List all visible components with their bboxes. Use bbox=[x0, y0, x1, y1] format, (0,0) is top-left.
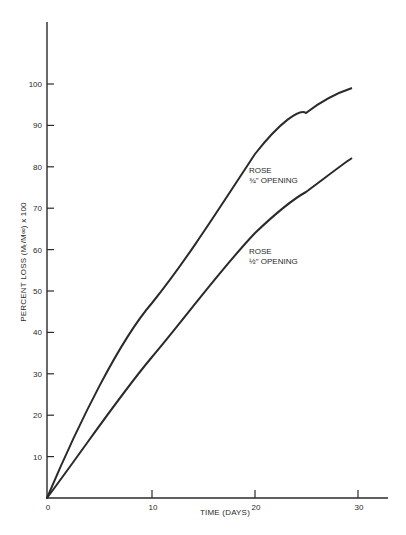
x-tick-label: 0 bbox=[46, 503, 51, 512]
y-tick-label: 20 bbox=[33, 411, 42, 420]
y-tick-label: 40 bbox=[33, 328, 42, 337]
y-ticks bbox=[47, 84, 54, 457]
x-axis-title: TIME (DAYS) bbox=[200, 508, 250, 517]
y-tick-label: 90 bbox=[33, 121, 42, 130]
annotation-three-quarter: ROSE ¾" OPENING bbox=[249, 166, 298, 185]
annotation-label: ¾" OPENING bbox=[249, 176, 298, 185]
y-tick-label: 50 bbox=[33, 287, 42, 296]
x-ticks bbox=[152, 490, 358, 498]
series-rose-half-inch bbox=[47, 158, 352, 498]
annotation-label: ROSE bbox=[249, 166, 272, 175]
chart-canvas: 10 20 30 40 50 60 70 80 90 100 0 10 20 3… bbox=[0, 0, 406, 535]
annotation-label: ½" OPENING bbox=[249, 257, 298, 266]
y-tick-label: 30 bbox=[33, 370, 42, 379]
y-tick-label: 100 bbox=[29, 80, 43, 89]
x-tick-label: 10 bbox=[149, 503, 158, 512]
y-tick-label: 70 bbox=[33, 204, 42, 213]
y-tick-label: 80 bbox=[33, 163, 42, 172]
x-tick-label: 20 bbox=[252, 503, 261, 512]
y-tick-label: 10 bbox=[33, 453, 42, 462]
y-axis-title: PERCENT LOSS (Mₜ/M∞) x 100 bbox=[19, 202, 28, 322]
annotation-label: ROSE bbox=[249, 247, 272, 256]
annotation-half: ROSE ½" OPENING bbox=[249, 247, 298, 266]
y-tick-labels: 10 20 30 40 50 60 70 80 90 100 bbox=[29, 80, 43, 462]
y-tick-label: 60 bbox=[33, 246, 42, 255]
x-tick-label: 30 bbox=[355, 503, 364, 512]
